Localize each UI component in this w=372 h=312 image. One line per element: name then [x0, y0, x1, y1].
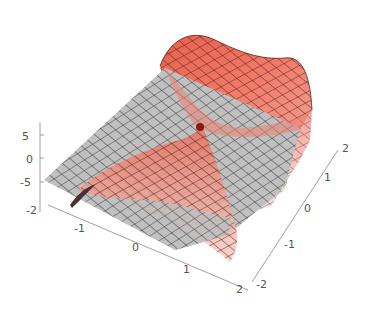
x-tick-label: 0 [132, 241, 139, 254]
surface-plot: 5 0 -5 -2 -1 0 1 2 -2 -1 0 1 2 [0, 0, 372, 312]
x-tick-label: 2 [236, 283, 243, 296]
z-tick-label: -5 [20, 176, 31, 189]
y-tick-label: -1 [284, 238, 295, 251]
z-tick-label: 0 [26, 153, 33, 166]
y-tick-label: 2 [342, 142, 349, 155]
x-tick-label: -2 [26, 204, 37, 217]
y-tick-label: 0 [304, 202, 311, 215]
z-axis-ticks: 5 0 -5 [20, 130, 44, 189]
critical-point-marker [196, 123, 204, 131]
y-tick-label: -2 [256, 278, 267, 291]
z-tick-label: 5 [22, 130, 29, 143]
y-tick-label: 1 [324, 171, 331, 184]
x-tick-label: -1 [74, 222, 85, 235]
x-tick-label: 1 [183, 263, 190, 276]
